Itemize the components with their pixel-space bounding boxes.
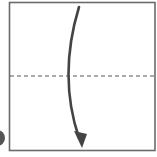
- fold-diagram: [0, 0, 157, 157]
- step-marker: [0, 130, 5, 146]
